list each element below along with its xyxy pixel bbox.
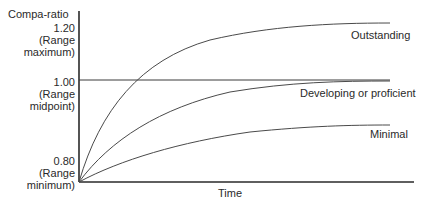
y-tick-0-80-sub1: (Range — [39, 167, 75, 179]
minimal-curve — [79, 125, 390, 182]
y-tick-1-20: 1.20 — [54, 22, 75, 34]
y-tick-0-80-sub2: minimum) — [27, 179, 75, 191]
y-tick-1-00-sub2: midpoint) — [30, 100, 75, 112]
series-label-minimal: Minimal — [370, 128, 408, 140]
y-tick-1-00-sub1: (Range — [39, 88, 75, 100]
y-tick-1-20-sub2: maximum) — [24, 46, 75, 58]
x-axis-title: Time — [218, 187, 242, 199]
outstanding-curve — [79, 23, 390, 182]
y-tick-1-00: 1.00 — [54, 76, 75, 88]
y-tick-1-20-sub1: (Range — [39, 34, 75, 46]
series-label-outstanding: Outstanding — [351, 29, 410, 41]
y-tick-0-80: 0.80 — [54, 155, 75, 167]
y-axis-title: Compa-ratio — [8, 8, 69, 20]
series-label-developing: Developing or proficient — [300, 87, 416, 99]
